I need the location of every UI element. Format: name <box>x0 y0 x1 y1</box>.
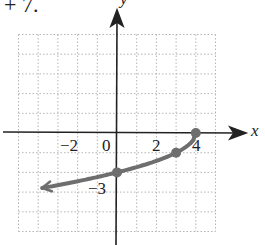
x-axis-label: x <box>251 122 259 139</box>
data-point <box>171 148 181 158</box>
axes <box>3 10 246 245</box>
tick-label-neg2: −2 <box>60 137 78 154</box>
y-axis <box>116 20 117 245</box>
data-point <box>112 167 122 177</box>
y-axis-label: y <box>120 0 128 7</box>
x-axis <box>3 132 240 133</box>
coordinate-plane <box>0 0 265 245</box>
tick-label-4: 4 <box>192 137 201 154</box>
graph-figure: + 7. x y −2 0 2 4 −3 <box>0 0 265 245</box>
tick-label-neg3: −3 <box>88 180 106 197</box>
tick-label-0: 0 <box>102 137 111 154</box>
tick-label-2: 2 <box>152 137 161 154</box>
